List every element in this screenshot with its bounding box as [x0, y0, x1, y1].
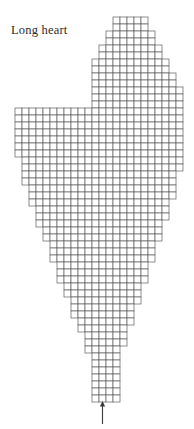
grid-cell	[85, 227, 92, 234]
grid-cell	[43, 143, 50, 150]
grid-cell	[148, 136, 155, 143]
grid-cell	[141, 45, 148, 52]
grid-cell	[50, 255, 57, 262]
grid-cell	[148, 206, 155, 213]
grid-cell	[155, 59, 162, 66]
grid-cell	[134, 45, 141, 52]
grid-cell	[50, 122, 57, 129]
grid-cell	[176, 136, 183, 143]
grid-cell	[141, 31, 148, 38]
grid-cell	[92, 388, 99, 395]
grid-cell	[57, 234, 64, 241]
grid-cell	[113, 171, 120, 178]
grid-cell	[99, 185, 106, 192]
grid-cell	[134, 52, 141, 59]
grid-cell	[99, 297, 106, 304]
grid-cell	[78, 220, 85, 227]
grid-cell	[99, 150, 106, 157]
grid-cell	[106, 164, 113, 171]
grid-cell	[106, 353, 113, 360]
grid-cell	[71, 115, 78, 122]
grid-cell	[120, 164, 127, 171]
grid-cell	[162, 143, 169, 150]
grid-cell	[155, 115, 162, 122]
grid-cell	[120, 45, 127, 52]
grid-cell	[106, 101, 113, 108]
grid-cell	[106, 283, 113, 290]
grid-cell	[106, 262, 113, 269]
grid-cell	[92, 115, 99, 122]
grid-cell	[50, 157, 57, 164]
grid-cell	[113, 367, 120, 374]
grid-cell	[120, 213, 127, 220]
grid-cell	[141, 171, 148, 178]
grid-cell	[57, 185, 64, 192]
grid-cell	[71, 178, 78, 185]
grid-cell	[155, 185, 162, 192]
grid-cell	[127, 227, 134, 234]
grid-cell	[22, 122, 29, 129]
grid-cell	[120, 276, 127, 283]
grid-cell	[85, 346, 92, 353]
grid-cell	[92, 87, 99, 94]
grid-cell	[134, 157, 141, 164]
grid-cell	[15, 122, 22, 129]
grid-cell	[106, 150, 113, 157]
grid-cell	[29, 129, 36, 136]
grid-cell	[127, 255, 134, 262]
grid-cell	[113, 269, 120, 276]
grid-cell	[120, 220, 127, 227]
grid-cell	[120, 66, 127, 73]
grid-cell	[113, 73, 120, 80]
grid-cell	[148, 73, 155, 80]
grid-cell	[113, 304, 120, 311]
grid-cell	[78, 122, 85, 129]
grid-cell	[85, 325, 92, 332]
grid-cell	[113, 241, 120, 248]
grid-cell	[155, 66, 162, 73]
grid-cell	[57, 199, 64, 206]
grid-cell	[78, 290, 85, 297]
grid-cell	[29, 136, 36, 143]
grid-cell	[106, 318, 113, 325]
grid-cell	[71, 164, 78, 171]
grid-cell	[127, 290, 134, 297]
grid-cell	[162, 94, 169, 101]
grid-cell	[120, 192, 127, 199]
grid-cell	[113, 136, 120, 143]
grid-cell	[106, 157, 113, 164]
grid-cell	[92, 353, 99, 360]
grid-cell	[43, 157, 50, 164]
grid-cell	[127, 52, 134, 59]
grid-cell	[106, 66, 113, 73]
grid-cell	[71, 199, 78, 206]
grid-cell	[169, 94, 176, 101]
grid-cell	[106, 367, 113, 374]
grid-cell	[127, 304, 134, 311]
grid-cell	[120, 24, 127, 31]
grid-cell	[43, 136, 50, 143]
grid-cell	[127, 129, 134, 136]
grid-cell	[155, 52, 162, 59]
grid-cell	[127, 171, 134, 178]
grid-cell	[78, 108, 85, 115]
grid-cell	[71, 220, 78, 227]
grid-cell	[141, 73, 148, 80]
grid-cell	[57, 227, 64, 234]
grid-cell	[50, 248, 57, 255]
grid-cell	[92, 80, 99, 87]
grid-cell	[78, 255, 85, 262]
grid-cell	[99, 374, 106, 381]
grid-cell	[113, 115, 120, 122]
grid-cell	[106, 115, 113, 122]
grid-cell	[120, 108, 127, 115]
grid-cell	[113, 199, 120, 206]
grid-cell	[141, 52, 148, 59]
grid-cell	[113, 374, 120, 381]
grid-cell	[113, 87, 120, 94]
grid-cell	[113, 101, 120, 108]
grid-cell	[57, 192, 64, 199]
grid-cell	[155, 199, 162, 206]
grid-cell	[106, 395, 113, 402]
grid-cell	[127, 31, 134, 38]
